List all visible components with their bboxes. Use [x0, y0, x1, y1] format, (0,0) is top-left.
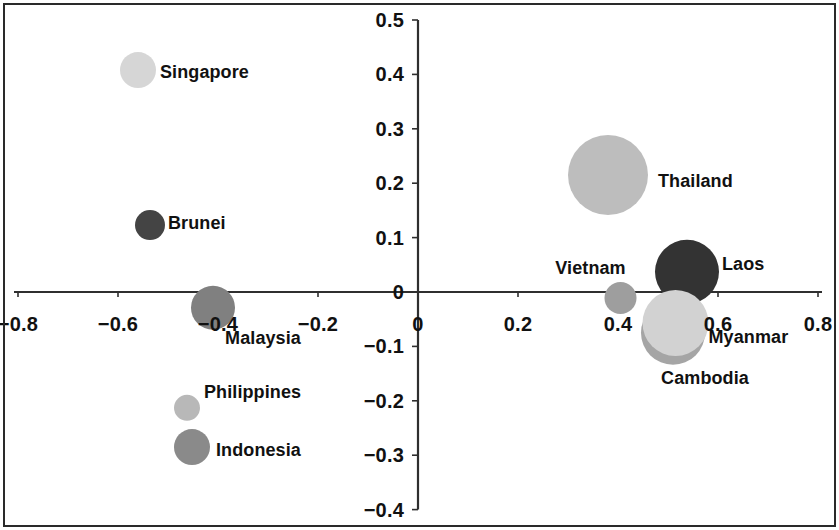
bubble-label-indonesia: Indonesia	[216, 441, 301, 459]
y-tick-label-4: 0.1	[376, 228, 404, 248]
bubble-label-laos: Laos	[722, 255, 764, 273]
bubble-thailand[interactable]	[568, 135, 648, 215]
x-tick-label-0: −0.8	[0, 314, 38, 334]
x-tick-label-4: 0	[412, 314, 423, 334]
x-tick-label-5: 0.2	[504, 314, 532, 334]
y-tick-label-3: 0.2	[376, 173, 404, 193]
bubble-label-myanmar: Myanmar	[709, 328, 789, 346]
bubble-label-singapore: Singapore	[160, 63, 249, 81]
y-tick-label-7: −0.2	[364, 391, 404, 411]
bubble-vietnam[interactable]	[605, 282, 637, 314]
bubble-label-brunei: Brunei	[168, 214, 226, 232]
bubble-series	[120, 52, 719, 465]
bubble-indonesia[interactable]	[174, 429, 210, 465]
bubble-label-vietnam: Vietnam	[555, 259, 625, 277]
bubble-chart-figure: −0.8−0.6−0.4−0.200.20.40.60.80.50.40.30.…	[0, 0, 839, 530]
y-tick-label-1: 0.4	[376, 64, 404, 84]
y-tick-label-8: −0.3	[364, 445, 404, 465]
bubble-label-philippines: Philippines	[204, 383, 301, 401]
bubble-label-malaysia: Malaysia	[225, 329, 301, 347]
x-tick-label-6: 0.4	[604, 314, 632, 334]
bubble-label-cambodia: Cambodia	[661, 369, 749, 387]
bubble-singapore[interactable]	[120, 52, 156, 88]
bubble-myanmar[interactable]	[643, 290, 709, 356]
bubble-label-thailand: Thailand	[658, 172, 733, 190]
bubble-brunei[interactable]	[135, 210, 165, 240]
bubble-philippines[interactable]	[174, 395, 200, 421]
y-tick-label-5: 0	[393, 282, 404, 302]
y-tick-label-0: 0.5	[376, 10, 404, 30]
y-tick-label-2: 0.3	[376, 119, 404, 139]
y-tick-label-9: −0.4	[364, 500, 404, 520]
x-tick-label-3: −0.2	[298, 314, 338, 334]
x-tick-label-8: 0.8	[804, 314, 832, 334]
y-tick-label-6: −0.1	[364, 336, 404, 356]
x-tick-label-1: −0.6	[98, 314, 138, 334]
plot-area	[0, 0, 839, 530]
